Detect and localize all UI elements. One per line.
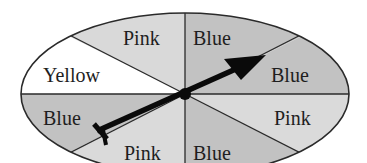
spinner-diagram: Pink Blue Blue Pink Blue Pink Blue Yello… [0,0,367,163]
label-right-upper: Blue [271,64,309,86]
label-left-upper: Yellow [43,64,100,86]
label-bottom-left: Pink [124,142,161,163]
label-top-left: Pink [123,27,160,49]
label-bottom-right: Blue [193,142,231,163]
spinner-hub-icon [179,88,191,100]
label-top-right: Blue [193,27,231,49]
label-left-lower: Blue [43,107,81,129]
label-right-lower: Pink [274,107,311,129]
